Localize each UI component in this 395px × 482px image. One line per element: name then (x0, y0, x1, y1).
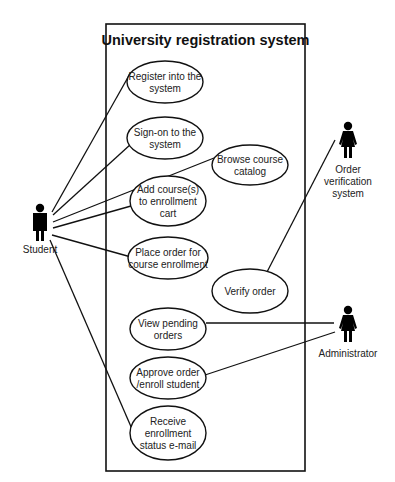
use-case-diagram: University registration system Register … (0, 0, 395, 482)
use-case-label: Place order for (135, 247, 201, 258)
use-case-label: Receive (150, 416, 187, 427)
use-case-add-course[interactable]: Add course(s)to enrollmentcart (130, 176, 206, 226)
use-case-label: View pending (138, 318, 198, 329)
use-case-view-pending[interactable]: View pendingorders (130, 308, 206, 350)
actor-label: verification (324, 176, 372, 187)
actor-label: Order (335, 164, 361, 175)
system-title: University registration system (102, 32, 310, 48)
use-case-label: Approve order (136, 367, 200, 378)
use-case-label: cart (160, 208, 177, 219)
use-case-signon[interactable]: Sign-on to thesystem (127, 117, 203, 159)
use-case-receive[interactable]: Receiveenrollmentstatus e-mail (130, 406, 206, 460)
association-administrator-approve (205, 332, 335, 375)
use-case-register[interactable]: Register into thesystem (127, 61, 203, 103)
actor-label: Student (23, 244, 58, 255)
use-case-browse[interactable]: Browse coursecatalog (212, 145, 288, 185)
use-case-label: status e-mail (140, 440, 197, 451)
use-case-label: Browse course (217, 154, 284, 165)
use-case-label: Verify order (224, 286, 276, 297)
use-case-label: catalog (234, 166, 266, 177)
use-case-label: Add course(s) (137, 184, 199, 195)
female-person-icon (339, 122, 357, 158)
association-student-place-order (52, 235, 131, 257)
use-case-place-order[interactable]: Place order forcourse enrollment (128, 237, 208, 279)
female-person-icon (339, 306, 357, 342)
association-student-receive (50, 240, 132, 429)
use-case-label: to enrollment (139, 196, 197, 207)
use-case-label: course enrollment (128, 259, 208, 270)
use-case-label: system (149, 139, 181, 150)
association-student-register (52, 72, 131, 212)
use-case-label: orders (154, 330, 182, 341)
use-cases: Register into thesystemSign-on to thesys… (127, 61, 288, 460)
actor-label: Administrator (319, 348, 379, 359)
use-case-approve[interactable]: Approve order/enroll student (130, 357, 206, 399)
association-student-signon (53, 144, 131, 215)
use-case-label: /enroll student (137, 379, 200, 390)
use-case-label: Register into the (129, 71, 202, 82)
actor-administrator[interactable]: Administrator (319, 306, 379, 359)
actor-label: system (332, 188, 364, 199)
use-case-label: system (149, 83, 181, 94)
use-case-label: enrollment (145, 428, 192, 439)
use-case-verify[interactable]: Verify order (212, 269, 288, 313)
male-person-icon (33, 204, 47, 241)
actor-order-verification-system[interactable]: Orderverificationsystem (324, 122, 372, 199)
use-case-label: Sign-on to the (134, 127, 197, 138)
